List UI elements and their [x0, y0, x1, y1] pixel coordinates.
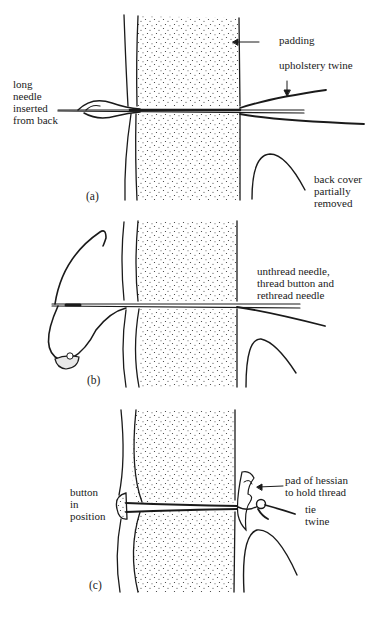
- upholstery-buttoning-diagram: padding upholstery twine long needle ins…: [0, 0, 381, 617]
- back-cover-c: [244, 530, 297, 592]
- panel-tag-c: (c): [89, 579, 102, 591]
- label-padding: padding: [279, 34, 314, 46]
- label-tie-twine: tie twine: [305, 503, 329, 527]
- tie-twine-c: [265, 505, 295, 514]
- panel-b-drawing: [48, 221, 325, 387]
- label-button-in-position: button in position: [70, 486, 105, 522]
- panel-tag-a: (a): [86, 190, 99, 202]
- button-c: [116, 493, 127, 519]
- hessian-pad: [238, 472, 255, 530]
- tie-knot: [257, 500, 266, 509]
- label-upholstery-twine: upholstery twine: [279, 59, 353, 71]
- label-long-needle: long needle inserted from back: [13, 78, 58, 126]
- label-pad-of-hessian: pad of hessian to hold thread: [285, 474, 348, 498]
- label-unthread-instruction: unthread needle, thread button and rethr…: [257, 265, 334, 301]
- back-cover-b: [246, 339, 296, 387]
- back-cover-a: [252, 154, 305, 199]
- panel-c-drawing: [116, 410, 297, 592]
- label-back-cover: back cover partially removed: [314, 173, 362, 209]
- upholstery-twine-a: [240, 90, 326, 108]
- panel-tag-b: (b): [87, 374, 100, 386]
- padding-lower-a: [137, 114, 240, 200]
- padding-upper-a: [137, 16, 240, 106]
